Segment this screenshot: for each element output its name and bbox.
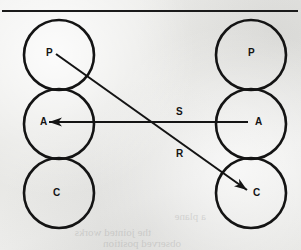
node-label-right-a: A (255, 117, 262, 127)
edge-label-r: R (176, 149, 183, 159)
node-circle-right-a[interactable] (216, 89, 286, 159)
node-label-right-p: P (248, 48, 255, 58)
node-label-left-c: C (53, 188, 60, 198)
node-circle-left-a[interactable] (24, 89, 94, 159)
node-label-left-a: A (40, 117, 47, 127)
node-label-left-p: P (46, 48, 53, 58)
edge-label-s: S (176, 107, 183, 117)
node-circle-right-c[interactable] (216, 158, 286, 228)
node-label-right-c: C (253, 188, 260, 198)
diagram-canvas: the jointed works observed position a pl… (0, 0, 301, 250)
